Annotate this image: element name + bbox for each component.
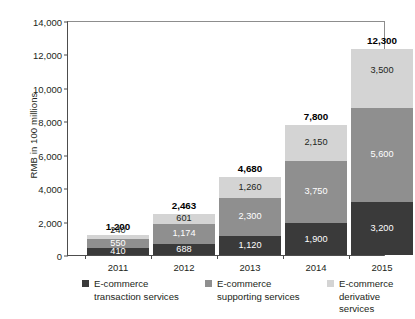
y-tick-label-10000: 10,000 [33,83,62,94]
legend-swatch-icon-supporting [205,280,212,287]
bar-segment-label-transaction-2011: 410 [110,247,125,256]
legend-label-derivative: E-commerce derivative services [339,278,415,316]
legend-item-derivative-services[interactable]: E-commerce derivative services [327,278,415,316]
x-tick-mark-4 [349,255,350,259]
y-tick-label-0: 0 [57,251,62,262]
bar-segment-transaction-2014[interactable]: 1,900 [285,223,347,255]
bar-segment-transaction-2012[interactable]: 688 [153,244,215,256]
bar-segment-label-transaction-2012: 688 [176,245,191,254]
bar-segment-supporting-2014[interactable]: 3,750 [285,161,347,224]
bar-group-2015[interactable]: 12,300 3,500 5,600 3,200 [351,49,413,255]
x-tick-label-2014: 2014 [305,262,326,273]
bar-segment-label-supporting-2014: 3,750 [305,187,328,196]
bar-total-label-2014: 7,800 [304,111,329,122]
legend-item-transaction-services[interactable]: E-commerce transaction services [82,278,179,303]
y-tick-label-2000: 2,000 [38,217,62,228]
y-tick-label-8000: 8,000 [38,117,62,128]
bar-segment-label-transaction-2015: 3,200 [371,224,394,233]
bar-segment-supporting-2013[interactable]: 2,300 [219,198,281,236]
y-tick-label-14000: 14,000 [33,17,62,28]
bar-segment-label-derivative-2013: 1,260 [239,183,262,192]
x-tick-mark-0 [85,255,86,259]
bar-group-2013[interactable]: 4,680 1,260 2,300 1,120 [219,177,281,255]
x-tick-label-2012: 2012 [173,262,194,273]
legend-swatch-icon-derivative [327,280,334,287]
y-axis-title: RMB in 100 millions [28,41,39,231]
bar-segment-label-supporting-2015: 5,600 [371,150,394,159]
bar-group-2014[interactable]: 7,800 2,150 3,750 1,900 [285,125,347,255]
bar-segment-label-transaction-2014: 1,900 [305,235,328,244]
bar-total-label-2015: 12,300 [367,35,397,46]
bar-segment-derivative-2015[interactable]: 3,500 [351,49,413,108]
y-tick-label-6000: 6,000 [38,150,62,161]
bar-segment-supporting-2012[interactable]: 1,174 [153,224,215,244]
y-tick-label-4000: 4,000 [38,184,62,195]
bar-segment-label-derivative-2015: 3,500 [371,66,394,75]
x-tick-label-2013: 2013 [239,262,260,273]
bar-segment-label-supporting-2012: 1,174 [173,229,196,238]
bar-segment-derivative-2013[interactable]: 1,260 [219,177,281,198]
bar-segment-transaction-2015[interactable]: 3,200 [351,202,413,255]
y-tick-label-12000: 12,000 [33,50,62,61]
bar-group-2012[interactable]: 2,463 601 1,174 688 [153,214,215,255]
plot-area: 14,000 12,000 10,000 8,000 6,000 4,000 2… [67,21,385,256]
bar-segment-label-derivative-2014: 2,150 [305,138,328,147]
bar-segment-label-transaction-2013: 1,120 [239,241,262,250]
x-tick-label-2015: 2015 [371,262,392,273]
x-tick-mark-2 [217,255,218,259]
stacked-bar-chart: RMB in 100 millions 14,000 12,000 10,000… [0,0,415,319]
bar-segment-derivative-2012[interactable]: 601 [153,214,215,224]
legend-label-supporting: E-commerce supporting services [217,278,300,303]
chart-legend: E-commerce transaction services E-commer… [67,278,415,314]
bar-segment-transaction-2013[interactable]: 1,120 [219,236,281,255]
legend-swatch-icon-transaction [82,280,89,287]
bar-segment-label-supporting-2013: 2,300 [239,212,262,221]
x-tick-label-2011: 2011 [108,262,128,273]
bar-segment-transaction-2011[interactable]: 410 [87,248,149,255]
x-tick-mark-1 [151,255,152,259]
bar-total-label-2013: 4,680 [238,163,263,174]
legend-label-transaction: E-commerce transaction services [94,278,179,303]
bar-segment-label-derivative-2011: 240 [110,226,125,235]
bar-segment-derivative-2014[interactable]: 2,150 [285,125,347,161]
x-tick-mark-3 [283,255,284,259]
legend-item-supporting-services[interactable]: E-commerce supporting services [205,278,300,303]
bar-segment-supporting-2015[interactable]: 5,600 [351,108,413,202]
bar-total-label-2012: 2,463 [172,200,197,211]
bar-group-2011[interactable]: 1,200 240 550 410 [87,235,149,255]
bar-segment-label-derivative-2012: 601 [176,214,191,223]
